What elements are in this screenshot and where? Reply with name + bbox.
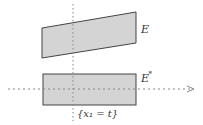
diagram-canvas: E E * {x₁ = t} bbox=[0, 0, 203, 125]
label-e-star-superscript: * bbox=[149, 70, 153, 78]
label-slice: {x₁ = t} bbox=[77, 108, 118, 119]
label-e: E bbox=[140, 23, 149, 36]
set-e-parallelogram bbox=[42, 12, 136, 58]
